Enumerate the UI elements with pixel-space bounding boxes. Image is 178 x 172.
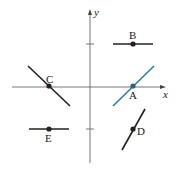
point-d: D xyxy=(122,109,145,150)
point-d-label: D xyxy=(137,125,145,137)
point-c-label: C xyxy=(46,73,53,85)
axes: x y xyxy=(12,6,168,163)
point-b-dot xyxy=(130,41,135,46)
y-axis-arrow-icon xyxy=(88,9,92,15)
slope-diagram: x y B A C E D xyxy=(0,0,178,172)
x-axis-label: x xyxy=(162,88,168,100)
point-a-label: A xyxy=(129,89,137,101)
point-a-dot xyxy=(130,83,135,88)
point-e-dot xyxy=(46,126,51,131)
y-axis-label: y xyxy=(93,6,99,18)
point-c: C xyxy=(28,66,70,106)
point-d-dot xyxy=(130,126,135,131)
point-e: E xyxy=(29,126,69,144)
point-b: B xyxy=(113,29,153,47)
point-a: A xyxy=(113,66,154,106)
point-b-label: B xyxy=(129,29,136,41)
point-e-label: E xyxy=(45,132,52,144)
